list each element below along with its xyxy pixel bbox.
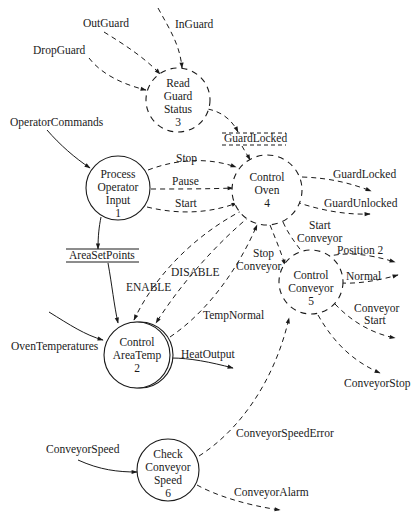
svg-text:5: 5: [308, 295, 314, 307]
flow-operator-commands: OperatorCommands: [10, 116, 104, 168]
svg-text:ConveyorSpeed: ConveyorSpeed: [46, 443, 120, 456]
svg-text:InGuard: InGuard: [175, 18, 214, 30]
svg-text:OutGuard: OutGuard: [83, 17, 129, 29]
svg-text:ConveyorAlarm: ConveyorAlarm: [234, 486, 309, 499]
process-read-guard-status: Read Guard Status 3: [146, 68, 210, 132]
store-area-set-points: AreaSetPoints: [66, 249, 139, 262]
svg-text:Control: Control: [119, 336, 154, 348]
svg-text:DISABLE: DISABLE: [171, 266, 220, 278]
svg-text:GuardLocked: GuardLocked: [224, 132, 287, 144]
svg-text:GuardUnlocked: GuardUnlocked: [324, 197, 398, 209]
svg-text:ConveyorSpeedError: ConveyorSpeedError: [236, 427, 334, 440]
flow-conveyor-speed: ConveyorSpeed: [46, 443, 137, 472]
svg-text:Read: Read: [166, 77, 190, 89]
svg-text:Process: Process: [100, 168, 136, 180]
svg-text:Conveyor: Conveyor: [288, 282, 334, 295]
flow-start: Start: [147, 197, 237, 212]
flow-temp-normal: TempNormal: [170, 225, 264, 337]
flow-pause: Pause: [151, 175, 233, 189]
svg-text:Operator: Operator: [98, 181, 139, 194]
svg-text:2: 2: [134, 362, 140, 374]
process-operator-input: Process Operator Input 1: [86, 156, 150, 220]
flow-stop-conveyor: Stop Conveyor: [236, 225, 285, 273]
flow-guard-unlocked-out: GuardUnlocked: [296, 197, 398, 214]
flow-conveyor-start: Conveyor Start: [335, 302, 400, 338]
svg-text:Pause: Pause: [172, 175, 199, 187]
svg-text:1: 1: [115, 207, 121, 219]
svg-text:Stop: Stop: [253, 247, 274, 260]
svg-text:ENABLE: ENABLE: [126, 281, 171, 293]
svg-text:Normal: Normal: [346, 270, 381, 282]
store-guard-locked: GuardLocked: [222, 132, 287, 145]
svg-text:Start: Start: [364, 314, 387, 326]
data-flow-diagram: InGuard OutGuard DropGuard GuardLocked O…: [0, 0, 419, 526]
flow-normal: Normal: [341, 270, 398, 283]
flow-oven-temperatures: OvenTemperatures: [11, 312, 103, 353]
svg-text:Speed: Speed: [154, 474, 182, 487]
svg-text:Status: Status: [164, 103, 193, 115]
svg-text:Check: Check: [153, 448, 183, 460]
svg-text:Guard: Guard: [164, 90, 193, 102]
flow-position-2: Position 2: [325, 244, 395, 262]
flow-guard-locked-out: GuardLocked: [302, 168, 396, 191]
svg-text:Control: Control: [293, 269, 328, 281]
svg-text:GuardLocked: GuardLocked: [333, 168, 396, 180]
svg-text:Input: Input: [106, 194, 131, 207]
svg-text:Control: Control: [249, 171, 284, 183]
process-control-area-temp: Control AreaTemp 2: [104, 322, 173, 388]
svg-text:TempNormal: TempNormal: [203, 309, 264, 322]
flow-store-to-oven: [242, 146, 250, 160]
svg-text:AreaTemp: AreaTemp: [113, 349, 162, 362]
flow-enable: ENABLE: [126, 210, 243, 320]
svg-text:Conveyor: Conveyor: [297, 232, 343, 245]
svg-text:OvenTemperatures: OvenTemperatures: [11, 340, 99, 353]
svg-text:Start: Start: [175, 197, 198, 209]
flow-conveyor-speed-error: ConveyorSpeedError: [199, 318, 334, 456]
flow-process-to-setpoints: [98, 217, 101, 249]
process-control-conveyor: Control Conveyor 5: [279, 250, 343, 314]
svg-text:Stop: Stop: [176, 152, 197, 165]
flow-stop: Stop: [148, 152, 236, 170]
svg-text:3: 3: [175, 116, 181, 128]
flow-conveyor-stop: ConveyorStop: [318, 315, 411, 390]
svg-text:6: 6: [165, 487, 171, 499]
svg-text:ConveyorStop: ConveyorStop: [344, 377, 411, 390]
svg-text:AreaSetPoints: AreaSetPoints: [69, 249, 135, 261]
svg-text:DropGuard: DropGuard: [33, 44, 86, 57]
flow-in-guard: InGuard: [158, 8, 214, 68]
flow-out-guard: OutGuard: [83, 17, 160, 74]
flow-guard-status-to-store: [208, 109, 238, 132]
flow-conveyor-alarm: ConveyorAlarm: [197, 485, 309, 510]
process-control-oven: Control Oven 4: [232, 155, 302, 225]
svg-text:4: 4: [264, 197, 270, 209]
flow-drop-guard: DropGuard: [33, 44, 146, 90]
svg-text:OperatorCommands: OperatorCommands: [10, 116, 104, 129]
svg-text:Position 2: Position 2: [337, 244, 384, 256]
svg-text:Start: Start: [309, 219, 332, 231]
svg-text:Oven: Oven: [255, 184, 280, 196]
svg-text:Conveyor: Conveyor: [145, 461, 191, 474]
svg-text:Conveyor: Conveyor: [236, 260, 282, 273]
svg-text:HeatOutput: HeatOutput: [181, 348, 235, 361]
process-check-conveyor-speed: Check Conveyor Speed 6: [137, 439, 199, 501]
flow-heat-output: HeatOutput: [171, 348, 235, 368]
flow-setpoints-to-areatemp: [108, 263, 118, 323]
